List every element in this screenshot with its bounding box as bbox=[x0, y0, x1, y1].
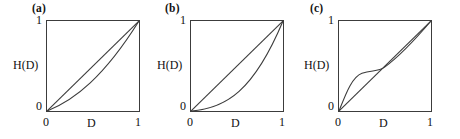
panel-a-x-tick-left: 0 bbox=[43, 116, 49, 129]
panel-b-x-tick-left: 0 bbox=[187, 116, 193, 129]
figure-three-panel-hazard-plots: (a) H(D) D 1 0 0 1 (b) H(D) D 1 0 0 1 (c… bbox=[0, 0, 460, 139]
panel-a-x-tick-right: 1 bbox=[135, 116, 141, 129]
panel-c: (c) H(D) D 1 0 0 1 bbox=[300, 0, 450, 139]
panel-a-plot-area bbox=[46, 20, 140, 112]
panel-c-x-axis-label: D bbox=[379, 116, 388, 130]
panel-b-plot-area bbox=[190, 20, 284, 112]
panel-b-diagonal-line bbox=[191, 21, 283, 111]
panel-a-y-tick-bottom: 0 bbox=[36, 100, 42, 113]
panel-a-diagonal-line bbox=[47, 21, 139, 111]
panel-a-y-tick-top: 1 bbox=[36, 14, 42, 27]
panel-c-x-tick-right: 1 bbox=[427, 116, 433, 129]
panel-c-y-tick-top: 1 bbox=[328, 14, 334, 27]
panel-b-x-tick-right: 1 bbox=[279, 116, 285, 129]
panel-c-diagonal-line bbox=[339, 21, 431, 111]
panel-b-y-tick-top: 1 bbox=[180, 14, 186, 27]
panel-c-y-axis-label: H(D) bbox=[304, 58, 329, 72]
panel-b-y-tick-bottom: 0 bbox=[180, 100, 186, 113]
panel-c-x-tick-left: 0 bbox=[335, 116, 341, 129]
panel-b-tag: (b) bbox=[165, 1, 180, 15]
panel-c-curves bbox=[339, 21, 431, 111]
panel-b-y-axis-label: H(D) bbox=[157, 58, 182, 72]
panel-b: (b) H(D) D 1 0 0 1 bbox=[150, 0, 300, 139]
panel-b-x-axis-label: D bbox=[231, 116, 240, 130]
panel-c-tag: (c) bbox=[310, 1, 323, 15]
panel-c-y-tick-bottom: 0 bbox=[328, 100, 334, 113]
panel-c-plot-area bbox=[338, 20, 432, 112]
panel-a-curves bbox=[47, 21, 139, 111]
panel-a-x-axis-label: D bbox=[87, 116, 96, 130]
panel-a: (a) H(D) D 1 0 0 1 bbox=[0, 0, 150, 139]
panel-b-curves bbox=[191, 21, 283, 111]
panel-a-y-axis-label: H(D) bbox=[13, 58, 38, 72]
